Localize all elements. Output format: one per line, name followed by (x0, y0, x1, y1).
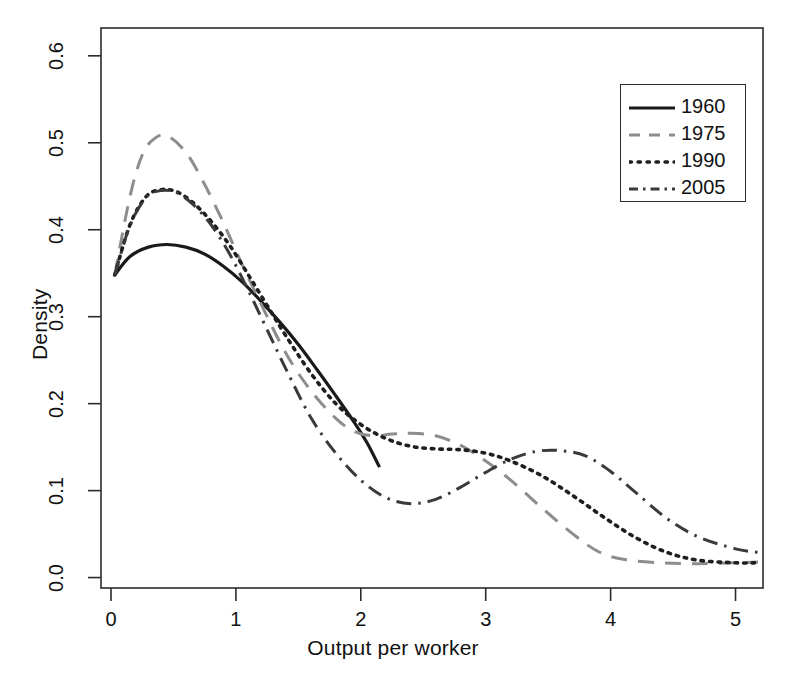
y-axis-tick-label: 0.0 (45, 555, 68, 601)
x-axis-tick-label: 5 (716, 608, 756, 631)
legend-label-2005: 2005 (681, 176, 726, 199)
density-chart: Output per worker Density 0123450.00.10.… (0, 0, 786, 681)
x-axis-tick-label: 3 (466, 608, 506, 631)
y-axis-tick-label: 0.5 (45, 120, 68, 166)
legend-label-1960: 1960 (681, 95, 726, 118)
series-line-1960 (115, 245, 380, 468)
x-axis-tick-label: 2 (341, 608, 381, 631)
legend-entry-1990: 1990 (621, 147, 747, 175)
y-axis-tick-label: 0.6 (45, 33, 68, 79)
legend: 1960197519902005 (620, 84, 746, 202)
legend-key-1990 (629, 160, 675, 163)
legend-key-1975 (629, 133, 675, 136)
x-axis-tick-label: 4 (591, 608, 631, 631)
legend-entry-1975: 1975 (621, 120, 747, 148)
x-axis-label: Output per worker (0, 636, 786, 660)
x-axis-tick-label: 1 (216, 608, 256, 631)
legend-key-2005 (629, 187, 675, 190)
legend-label-1990: 1990 (681, 149, 726, 172)
y-axis-tick-label: 0.3 (45, 294, 68, 340)
legend-key-1960 (629, 106, 675, 109)
x-axis-tick-label: 0 (91, 608, 131, 631)
series-line-2005 (115, 190, 758, 552)
y-axis-tick-label: 0.1 (45, 468, 68, 514)
legend-entry-2005: 2005 (621, 174, 747, 202)
y-axis-tick-label: 0.2 (45, 381, 68, 427)
y-axis-tick-label: 0.4 (45, 207, 68, 253)
series-line-1990 (115, 189, 758, 563)
legend-label-1975: 1975 (681, 122, 726, 145)
legend-entry-1960: 1960 (621, 93, 747, 121)
